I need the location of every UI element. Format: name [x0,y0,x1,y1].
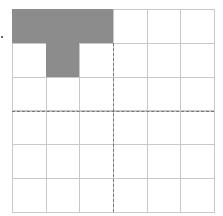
grid-cell [46,77,81,112]
shaded-cell [46,9,81,44]
grid-cell [79,43,114,78]
grid-cell [46,178,81,213]
grid-cell [147,144,182,179]
grid-cell [147,43,182,78]
grid-cell [180,144,215,179]
grid-cell [180,178,215,213]
grid-cell [113,77,148,112]
vertical-dashed-line [113,43,114,212]
grid-cell [79,144,114,179]
grid-cell [113,9,148,44]
grid-cell [79,178,114,213]
grid-cell [147,9,182,44]
grid-cell [113,111,148,146]
grid-cell [79,111,114,146]
shaded-cell [79,9,114,44]
square-grid [12,9,214,212]
grid-cell [147,77,182,112]
grid-cell [12,43,47,78]
grid-cell [46,111,81,146]
horizontal-dashed-line [12,111,214,112]
grid-cell [180,43,215,78]
grid-cell [113,178,148,213]
grid-cell [46,144,81,179]
grid-cell [180,9,215,44]
grid-cell [113,144,148,179]
grid-cell [12,178,47,213]
shaded-cell [12,9,47,44]
grid-cell [12,77,47,112]
grid-cell [180,77,215,112]
grid-cell [12,111,47,146]
shaded-cell [46,43,81,78]
grid-cell [113,43,148,78]
grid-cell [147,178,182,213]
marker-dot [1,36,3,38]
grid-cell [12,144,47,179]
grid-cell [79,77,114,112]
grid-cell [180,111,215,146]
grid-cell [147,111,182,146]
